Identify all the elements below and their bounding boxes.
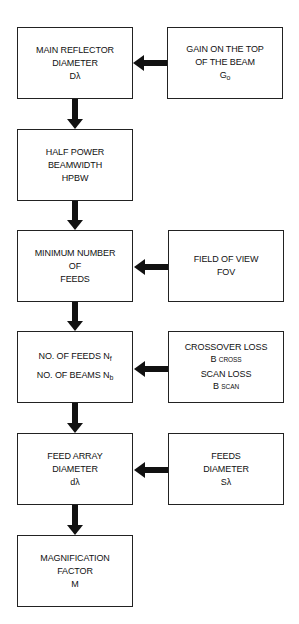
box-text: NO. OF BEAMS Nb (37, 367, 113, 386)
box-text: MINIMUM NUMBER (35, 247, 116, 260)
box-text: MAGNIFICATION (40, 552, 110, 565)
box-text: DIAMETER (203, 463, 249, 476)
box-text: FEEDS (211, 450, 241, 463)
box-text: Sλ (221, 476, 231, 489)
box-text: HPBW (62, 172, 89, 185)
main-reflector-diameter-box: MAIN REFLECTOR DIAMETER Dλ (17, 27, 133, 99)
arrow-down (72, 201, 78, 221)
box-text: dλ (70, 476, 79, 489)
arrow-down (72, 505, 78, 526)
feeds-and-beams-box: NO. OF FEEDS Nf NO. OF BEAMS Nb (17, 331, 133, 403)
box-text: B SCAN (213, 381, 239, 393)
arrow-down (72, 99, 78, 120)
arrow-left (144, 60, 167, 66)
arrow-down (72, 302, 78, 322)
box-text: FOV (217, 266, 235, 279)
box-text: FEED ARRAY (47, 450, 102, 463)
box-text: GAIN ON THE TOP (186, 43, 264, 56)
box-text: NO. OF FEEDS Nf (39, 348, 112, 367)
arrow-left (145, 366, 168, 372)
box-text: FIELD OF VIEW (194, 253, 259, 266)
arrow-down (72, 403, 78, 424)
minimum-number-of-feeds-box: MINIMUM NUMBER OF FEEDS (17, 230, 133, 302)
box-text: CROSSOVER LOSS (185, 342, 268, 354)
box-text: DIAMETER (52, 57, 98, 70)
arrow-left (145, 264, 168, 270)
box-text: B CROSS (211, 354, 242, 366)
box-text: FACTOR (57, 565, 93, 578)
box-text: Go (220, 69, 231, 84)
arrow-left (145, 467, 168, 473)
box-text: BEAMWIDTH (48, 159, 102, 172)
field-of-view-box: FIELD OF VIEW FOV (168, 230, 284, 302)
half-power-beamwidth-box: HALF POWER BEAMWIDTH HPBW (17, 129, 133, 201)
box-text: DIAMETER (52, 463, 98, 476)
feeds-diameter-box: FEEDS DIAMETER Sλ (168, 433, 284, 505)
box-text: HALF POWER (46, 146, 105, 159)
magnification-factor-box: MAGNIFICATION FACTOR M (17, 535, 133, 607)
gain-on-top-of-beam-box: GAIN ON THE TOP OF THE BEAM Go (167, 27, 283, 99)
box-text: OF THE BEAM (195, 56, 255, 69)
box-text: MAIN REFLECTOR (36, 44, 114, 57)
box-text: SCAN LOSS (201, 369, 252, 381)
feed-array-diameter-box: FEED ARRAY DIAMETER dλ (17, 433, 133, 505)
box-text: OF (69, 260, 81, 273)
box-text: M (71, 578, 78, 591)
box-text: FEEDS (60, 273, 90, 286)
box-text: Dλ (70, 70, 81, 83)
crossover-scan-loss-box: CROSSOVER LOSS B CROSS SCAN LOSS B SCAN (168, 331, 284, 403)
